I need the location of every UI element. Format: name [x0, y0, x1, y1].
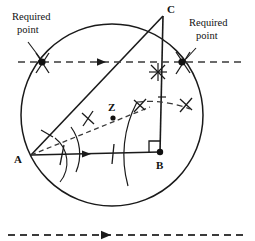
required-point-left-label-line1: Required — [12, 11, 51, 22]
required-point-left-label-line2: point — [17, 24, 39, 35]
callout-leader-right — [186, 48, 196, 59]
bisector-arc-large — [124, 102, 137, 186]
segment-ab — [31, 152, 160, 155]
point-b-dot — [157, 149, 163, 155]
arrow-on-dashed-horizontal-icon — [97, 58, 106, 66]
geometry-figure: Required point Required point A B C Z — [0, 0, 255, 241]
angle-arc-near-a-outer — [71, 127, 80, 172]
point-c-label: C — [167, 3, 175, 15]
required-point-right-label-line1: Required — [189, 17, 228, 28]
arrow-on-ab-icon — [82, 150, 91, 157]
point-z-label: Z — [108, 101, 115, 113]
bisector-arc-large-upper — [137, 101, 190, 109]
required-point-left-dot[interactable] — [38, 58, 45, 65]
segment-bc — [160, 16, 163, 152]
point-b-label: B — [156, 159, 164, 171]
construction-diagram: Required point Required point A B C Z — [0, 0, 255, 241]
tick-on-ab-mid — [112, 144, 114, 164]
circumcircle — [21, 24, 203, 206]
segment-ac — [31, 16, 163, 155]
arrow-on-bottom-line-icon — [101, 231, 111, 239]
cross-arc-right-icon — [180, 98, 192, 112]
required-point-right-dot[interactable] — [178, 58, 185, 65]
cross-on-az-icon — [82, 111, 94, 126]
point-z-dot — [110, 115, 115, 120]
required-point-right-label-line2: point — [196, 30, 218, 41]
callout-leader-left — [28, 42, 40, 58]
cross-below-c-icon — [149, 63, 167, 81]
point-a-label: A — [14, 153, 22, 165]
